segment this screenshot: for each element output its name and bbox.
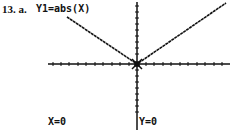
trace-y-value: Y=0	[139, 116, 157, 127]
trace-x-value: X=0	[48, 116, 66, 127]
abs-function-curve	[67, 3, 226, 64]
graph-plot	[0, 0, 233, 134]
